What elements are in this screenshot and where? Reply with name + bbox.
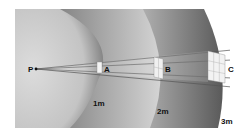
source-point bbox=[35, 68, 38, 71]
label-surface-a: A bbox=[104, 65, 110, 74]
label-radius-3m: 3m bbox=[221, 117, 233, 126]
surface-b bbox=[154, 57, 163, 79]
label-surface-c: C bbox=[228, 65, 234, 74]
label-surface-b: B bbox=[165, 65, 171, 74]
surface-a bbox=[97, 62, 102, 73]
label-radius-1m: 1m bbox=[93, 99, 105, 108]
surface-c bbox=[208, 51, 225, 83]
inverse-square-diagram: P A B C 1m 2m 3m bbox=[0, 0, 250, 136]
label-source-p: P bbox=[28, 65, 34, 74]
label-radius-2m: 2m bbox=[157, 107, 169, 116]
